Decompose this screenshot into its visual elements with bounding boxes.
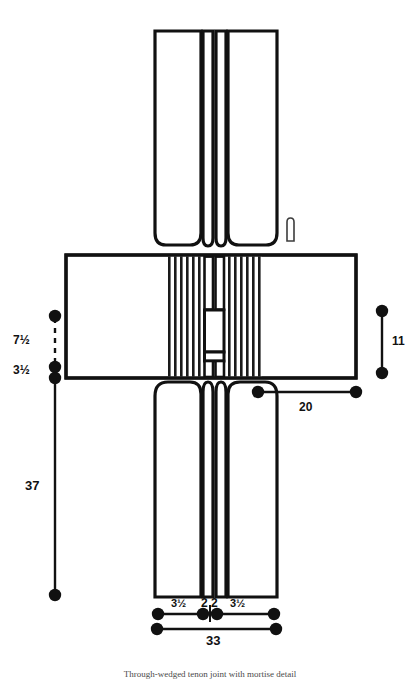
dim-label-bottom-left-stile: 3½	[171, 598, 186, 609]
technical-drawing-canvas	[0, 0, 420, 680]
dim-dot-left-upper-bottom	[49, 361, 61, 373]
wedge-peg-marker	[287, 218, 294, 241]
center-mortise	[205, 310, 225, 352]
tenon-slot-a-lower	[205, 361, 214, 377]
bottom-post-tenon-b	[216, 382, 226, 597]
dim-label-bottom-overall: 33	[206, 634, 220, 647]
dimension-left-upper	[49, 310, 61, 373]
tenon-slot-b-lower	[216, 361, 225, 377]
hatched-end-grain-left	[168, 257, 209, 377]
dim-dot-right-bottom	[376, 367, 388, 379]
top-post-stile-left	[155, 31, 201, 245]
dim-label-bottom-tenon-a: 2	[201, 597, 208, 609]
dim-dot-20-left	[252, 386, 264, 398]
bottom-post-tenon-a	[203, 382, 213, 597]
dim-dot-33-right	[270, 623, 282, 635]
tenon-slot-a-upper	[205, 257, 214, 310]
dim-dot-left-bottom	[49, 589, 61, 601]
dim-label-bottom-right-stile: 3½	[230, 598, 245, 609]
figure-caption: Through-wedged tenon joint with mortise …	[0, 669, 420, 680]
bottom-post-stile-left	[155, 382, 201, 597]
top-post-tenon-a	[203, 31, 213, 246]
dim-dot-right-top	[376, 305, 388, 317]
cross-rail-group	[66, 255, 356, 378]
top-post-stile-right	[228, 31, 277, 245]
bottom-post-group	[155, 382, 277, 597]
dim-label-bottom-tenon-b: 2	[211, 597, 218, 609]
dimension-right-vertical	[376, 305, 388, 379]
top-post-group	[155, 31, 277, 246]
dim-dot-33-left	[151, 623, 163, 635]
top-post-tenon-b	[216, 31, 226, 246]
dim-label-left-long: 37	[25, 479, 39, 492]
mortise-shoulder-block	[205, 352, 225, 361]
dim-dot-left-upper-top	[49, 310, 61, 322]
tenon-slot-b-upper	[216, 257, 225, 310]
dim-label-right-vertical: 11	[392, 335, 405, 347]
dim-dot-20-right	[350, 386, 362, 398]
dimension-left-lower	[49, 372, 61, 601]
hatched-end-grain-right	[221, 257, 262, 377]
dim-label-left-upper: 7½	[13, 334, 30, 346]
dim-dot-bottom-d	[268, 608, 280, 620]
bottom-post-stile-right	[228, 382, 277, 597]
dim-label-rail-horizontal: 20	[299, 401, 312, 413]
dim-dot-bottom-a	[152, 608, 164, 620]
dim-label-left-mid: 3½	[13, 364, 30, 376]
